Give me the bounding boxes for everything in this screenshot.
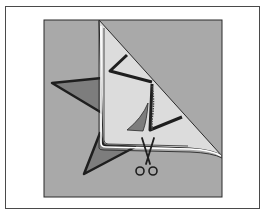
applique-illustration xyxy=(0,0,268,214)
